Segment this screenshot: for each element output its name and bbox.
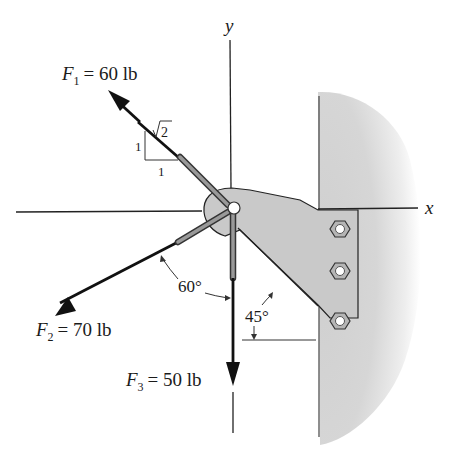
bracket-angle-label: 45° <box>245 307 269 326</box>
slope-hyp-label: 2 <box>161 125 168 140</box>
slope-rise-label: 1 <box>135 139 142 154</box>
f2-angle-label: 60° <box>178 277 202 296</box>
f3-label: F3= 50 lb <box>125 369 202 394</box>
force-f1: 1 1 2 F1= 60 lb <box>61 63 228 205</box>
force-diagram: 1 1 2 F1= 60 lb F2= 70 lb 60° <box>0 0 453 469</box>
force-f2: F2= 70 lb 60° <box>35 212 231 344</box>
pin <box>228 202 240 214</box>
slope-run-label: 1 <box>158 164 165 179</box>
x-axis-label: x <box>424 197 434 218</box>
f1-label: F1= 60 lb <box>61 63 138 88</box>
y-axis-label: y <box>223 15 234 36</box>
f2-label: F2= 70 lb <box>35 319 112 344</box>
arrowhead-icon <box>226 362 240 386</box>
x-axis-left <box>16 211 202 212</box>
bolt-icon <box>330 313 350 329</box>
bracket-angle-dimension: 45° <box>242 292 316 340</box>
bolt-icon <box>330 263 350 279</box>
y-axis-top <box>230 40 231 190</box>
bolt-icon <box>330 221 350 237</box>
arrowhead-icon <box>108 90 130 111</box>
